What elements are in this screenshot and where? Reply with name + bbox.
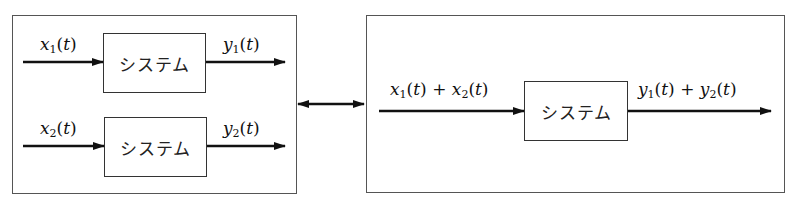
- input-label-x1: x1(t): [40, 34, 77, 56]
- input-label-x2: x2(t): [40, 118, 77, 140]
- combined-output-label: y1(t) + y2(t): [638, 79, 737, 101]
- arrows-layer: [0, 0, 802, 209]
- output-label-y2: y2(t): [223, 118, 260, 140]
- output-label-y1: y1(t): [223, 34, 260, 56]
- combined-input-label: x1(t) + x2(t): [390, 79, 489, 101]
